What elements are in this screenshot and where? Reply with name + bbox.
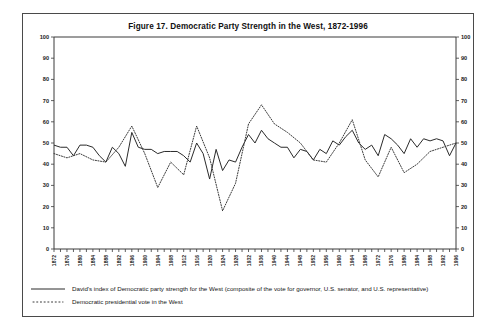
- x-tick-label: 1992: [440, 255, 446, 266]
- y-tick-label-left: 70: [43, 98, 49, 104]
- y-tick-label-left: 90: [43, 55, 49, 61]
- x-tick-label: 1948: [297, 255, 303, 266]
- x-tick-label: 1960: [336, 255, 342, 266]
- y-tick-label-right: 90: [461, 55, 467, 61]
- y-tick-label-right: 30: [461, 182, 467, 188]
- x-tick-label: 1912: [181, 255, 187, 266]
- y-tick-label-left: 100: [40, 34, 49, 40]
- series-line-2: [54, 105, 456, 211]
- x-tick-label: 1988: [427, 255, 433, 266]
- x-tick-label: 1952: [310, 255, 316, 266]
- x-tick-label: 1980: [401, 255, 407, 266]
- y-tick-label-left: 20: [43, 204, 49, 210]
- y-tick-label-left: 50: [43, 140, 49, 146]
- x-tick-label: 1900: [142, 255, 148, 266]
- x-tick-label: 1920: [207, 255, 213, 266]
- x-tick-label: 1984: [414, 255, 420, 266]
- x-tick-label: 1884: [90, 255, 96, 266]
- legend-label-david-index: David's index of Democratic party streng…: [72, 285, 428, 292]
- x-tick-label: 1940: [271, 255, 277, 266]
- x-tick-label: 1928: [233, 255, 239, 266]
- x-tick-label: 1872: [51, 255, 57, 266]
- legend-item-david-index: David's index of Democratic party streng…: [31, 282, 467, 295]
- series-line-1: [54, 130, 456, 179]
- x-tick-label: 1944: [284, 255, 290, 266]
- x-tick-label: 1916: [194, 255, 200, 266]
- y-tick-label-left: 40: [43, 161, 49, 167]
- legend-item-presidential-vote: Democratic presidential vote in the West: [31, 295, 467, 308]
- x-tick-label: 1972: [375, 255, 381, 266]
- y-tick-label-right: 70: [461, 98, 467, 104]
- legend-label-presidential-vote: Democratic presidential vote in the West: [72, 298, 183, 305]
- y-tick-label-left: 10: [43, 225, 49, 231]
- x-tick-label: 1908: [168, 255, 174, 266]
- legend-swatch-solid-line: [31, 285, 65, 293]
- x-tick-label: 1956: [323, 255, 329, 266]
- x-tick-label: 1924: [220, 255, 226, 266]
- y-tick-label-left: 60: [43, 119, 49, 125]
- figure-frame: Figure 17. Democratic Party Strength in …: [22, 13, 474, 317]
- x-tick-label: 1964: [349, 255, 355, 266]
- x-tick-label: 1976: [388, 255, 394, 266]
- y-tick-label-right: 50: [461, 140, 467, 146]
- y-tick-label-right: 0: [461, 246, 464, 252]
- y-tick-label-right: 20: [461, 204, 467, 210]
- chart-legend: David's index of Democratic party streng…: [31, 282, 467, 308]
- x-tick-label: 1888: [103, 255, 109, 266]
- legend-swatch-dotted-line: [31, 298, 65, 306]
- x-tick-label: 1904: [155, 255, 161, 266]
- y-tick-label-right: 100: [461, 34, 470, 40]
- x-tick-label: 1936: [258, 255, 264, 266]
- y-tick-label-right: 40: [461, 161, 467, 167]
- x-tick-label: 1892: [116, 255, 122, 266]
- x-tick-label: 1876: [64, 255, 70, 266]
- chart-plot-area: 0010102020303040405050606070708080909010…: [23, 14, 473, 294]
- x-tick-label: 1896: [129, 255, 135, 266]
- y-tick-label-left: 0: [46, 246, 49, 252]
- y-tick-label-left: 80: [43, 76, 49, 82]
- y-tick-label-left: 30: [43, 182, 49, 188]
- y-tick-label-right: 10: [461, 225, 467, 231]
- x-tick-label: 1996: [453, 255, 459, 266]
- x-tick-label: 1932: [246, 255, 252, 266]
- y-tick-label-right: 80: [461, 76, 467, 82]
- x-tick-label: 1880: [77, 255, 83, 266]
- y-tick-label-right: 60: [461, 119, 467, 125]
- x-tick-label: 1968: [362, 255, 368, 266]
